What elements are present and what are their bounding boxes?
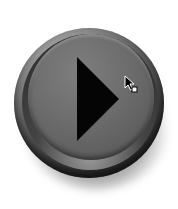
play-triangle-icon bbox=[77, 57, 119, 141]
arrow-cursor-icon bbox=[124, 75, 138, 95]
play-button[interactable]: Play bbox=[28, 34, 154, 160]
